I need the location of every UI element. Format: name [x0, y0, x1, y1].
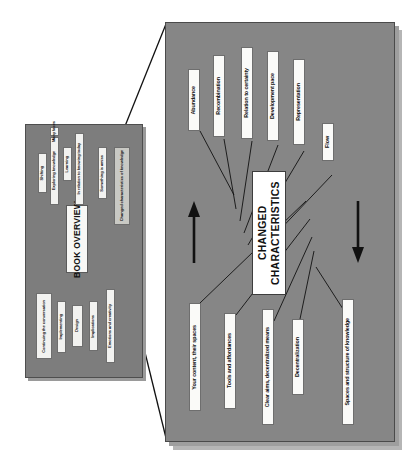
mindmap-node-development-pace[interactable]: Development pace — [267, 51, 279, 141]
small-node-continuing-the-conversation[interactable]: Continuing the conversation — [36, 293, 52, 359]
small-node-design[interactable]: Design — [72, 305, 83, 347]
changed-characteristics-mindmap[interactable]: CHANGED CHARACTERISTICS Abundance Recomb… — [165, 22, 395, 442]
down-arrow — [352, 201, 364, 263]
mindmap-center-node[interactable]: CHANGED CHARACTERISTICS — [252, 171, 286, 295]
mindmap-node-decentralization[interactable]: Decentralization — [292, 319, 304, 395]
small-node-implementing[interactable]: Implementing — [57, 301, 66, 353]
mindmap-node-clear-aims-decentralized-means[interactable]: Clear aims, decentralized means — [262, 309, 274, 425]
small-node-exploring-knowledge[interactable]: Exploring knowledge — [50, 137, 59, 205]
mindmap-node-spaces-and-structure-of-knowledge[interactable]: Spaces and structure of knowledge — [342, 299, 354, 425]
book-overview-title: BOOK OVERVIEW — [66, 205, 88, 273]
small-node-in-relation-to-knowing-today[interactable]: In relation to knowing today — [75, 133, 84, 205]
mindmap-node-relation-to-certainty[interactable]: Relation to certainty — [241, 47, 253, 139]
mindmap-node-abundance[interactable]: Abundance — [188, 69, 200, 131]
small-node-changed-characteristics-of-knowledge[interactable]: Changed characteristics of knowledge — [114, 147, 130, 225]
mindmap-node-tools-and-affordances[interactable]: Tools and affordances — [224, 313, 236, 409]
mindmap-node-recombination[interactable]: Recombination — [213, 55, 225, 137]
mindmap-node-flow[interactable]: Flow — [322, 123, 334, 161]
small-node-many-faces[interactable]: Many faces — [50, 127, 59, 136]
small-node-emotions-and-creativity[interactable]: Emotions and creativity — [106, 289, 115, 363]
up-arrow — [188, 201, 200, 263]
slide-canvas: BOOK OVERVIEW Shifting Exploring knowled… — [0, 0, 402, 463]
small-node-implications[interactable]: Implications — [89, 301, 98, 351]
small-node-something-is-amiss[interactable]: Something is amiss — [98, 147, 107, 199]
small-node-learning[interactable]: Learning — [63, 147, 72, 181]
small-node-shifting[interactable]: Shifting — [38, 153, 47, 193]
book-overview-panel[interactable]: BOOK OVERVIEW Shifting Exploring knowled… — [25, 124, 143, 378]
mindmap-node-representation[interactable]: Representation — [293, 59, 305, 145]
mindmap-node-your-content-their-spaces[interactable]: Your content, their spaces — [189, 303, 201, 411]
